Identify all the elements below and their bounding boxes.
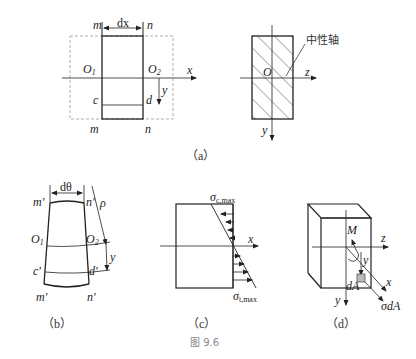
panel-c-label: （c） <box>187 317 216 331</box>
label-o1: O1 <box>31 232 44 247</box>
label-o2: O2 <box>148 62 161 77</box>
element-rect <box>102 36 143 119</box>
label-n-prime-top: n' <box>86 195 95 209</box>
label-axis-y: y <box>334 293 341 307</box>
panel-a-element-diagram: m n dx O1 O2 x y c d m n <box>62 16 196 136</box>
label-dx: dx <box>117 16 129 30</box>
label-axis-x: x <box>186 63 193 77</box>
label-dtheta: dθ <box>60 180 72 194</box>
panel-d-label: （d） <box>326 317 356 331</box>
label-axis-z: z <box>304 65 310 79</box>
panel-b-label: （b） <box>42 317 72 331</box>
label-y: y <box>109 250 116 264</box>
label-y-distance: y <box>362 253 369 267</box>
label-m-prime-bottom: m' <box>36 290 48 304</box>
label-origin: O <box>263 65 272 79</box>
label-axis-y: y <box>161 83 168 97</box>
panel-b-deformed-element: dθ m' n' ρ O1 O2 y c' d' m' n' <box>31 180 116 304</box>
label-c: c <box>93 93 99 107</box>
label-rho: ρ <box>99 196 106 210</box>
figure-canvas: m n dx O1 O2 x y c d m n O z y 中性轴 （a） d… <box>0 0 416 359</box>
label-sigma-cmax: σc,max <box>210 190 235 205</box>
label-m-prime-top: m' <box>33 195 45 209</box>
label-moment: M <box>346 223 358 237</box>
label-axis-y: y <box>261 123 268 137</box>
hatched-section <box>252 36 293 119</box>
label-axis-x: x <box>385 275 392 289</box>
label-c-prime: c' <box>33 264 41 278</box>
label-m-top: m <box>93 18 102 32</box>
fiber-cd-curved <box>45 270 110 273</box>
label-d-prime: d' <box>89 264 98 278</box>
label-axis-x: x <box>247 232 254 246</box>
label-axis-z: z <box>380 231 386 245</box>
label-dA: dA <box>346 279 360 293</box>
label-sigma-dA: σdA <box>381 299 401 313</box>
figure-caption: 图 9.6 <box>190 337 219 348</box>
dashed-outline <box>70 36 173 119</box>
panel-a-label: （a） <box>186 149 215 163</box>
panel-c-stress-distribution: σc,max x σt,max <box>160 190 258 304</box>
panel-a-cross-section: O z y 中性轴 <box>240 25 339 140</box>
neutral-layer-line <box>47 242 110 247</box>
label-neutral-axis: 中性轴 <box>306 33 339 47</box>
label-o2: O2 <box>86 232 99 247</box>
label-n-bottom: n <box>145 122 151 136</box>
panel-d-3d-element: M z y x dA y σdA <box>308 204 401 313</box>
label-n-prime-bottom: n' <box>87 290 96 304</box>
y-arrow <box>106 244 107 270</box>
label-sigma-tmax: σt,max <box>233 289 257 304</box>
label-m-bottom: m <box>90 122 99 136</box>
label-d: d <box>146 93 153 107</box>
label-o1: O1 <box>83 62 96 77</box>
label-n-top: n <box>147 18 153 32</box>
